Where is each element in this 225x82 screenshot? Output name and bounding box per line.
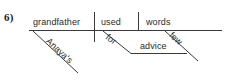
sentence-diagram-canvas: 6) grandfather used words advice Anaya's… bbox=[0, 0, 225, 82]
word-prep-object-advice: advice bbox=[140, 41, 167, 51]
word-verb-used: used bbox=[101, 17, 121, 27]
word-subject-grandfather: grandfather bbox=[33, 17, 80, 27]
word-object-words: words bbox=[146, 17, 171, 27]
